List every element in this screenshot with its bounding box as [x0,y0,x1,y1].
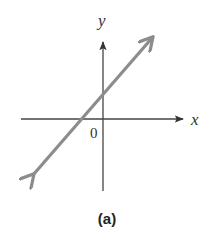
origin-label: 0 [90,125,98,141]
graph-figure: y x 0 (a) [0,0,214,242]
x-axis-label: x [190,110,199,129]
graph-line [33,38,152,175]
y-axis-label: y [96,11,106,30]
figure-caption: (a) [98,210,116,227]
